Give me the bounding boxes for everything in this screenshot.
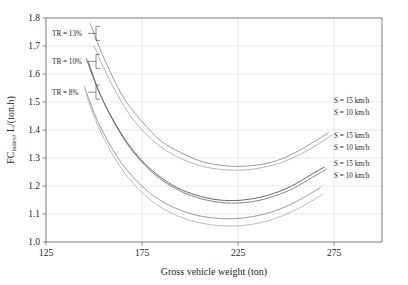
y-tick-label: 1.5 <box>28 97 40 107</box>
annotation-bracket-tr10 <box>96 54 100 68</box>
y-axis-title-subscript: index <box>10 136 17 151</box>
legend-label-0: S = 15 km/h <box>334 97 370 105</box>
y-axis-title-units: , L/(ton.h) <box>5 96 17 137</box>
y-tick-label: 1.8 <box>28 13 40 23</box>
legend-label-2: S = 15 km/h <box>334 132 370 140</box>
tr-annotations: TR = 13%TR = 10%TR = 8% <box>52 26 100 99</box>
fuel-consumption-chart: 125175225275 1.01.11.21.31.41.51.61.71.8… <box>0 0 408 285</box>
y-tick-label: 1.6 <box>28 69 40 79</box>
annotation-label-tr13: TR = 13% <box>52 30 82 38</box>
y-tick-label: 1.7 <box>28 41 40 51</box>
series-curve-0 <box>90 24 328 167</box>
y-tick-label: 1.2 <box>28 181 40 191</box>
legend: S = 15 km/hS = 10 km/hS = 15 km/hS = 10 … <box>334 97 370 180</box>
x-axis-ticks: 125175225275 <box>39 242 342 258</box>
y-axis-title: FCindex, L/(ton.h) <box>5 96 17 164</box>
annotation-label-tr10: TR = 10% <box>52 58 82 66</box>
x-tick-label: 225 <box>231 248 246 258</box>
svg-text:FCindex, L/(ton.h): FCindex, L/(ton.h) <box>5 96 17 164</box>
y-tick-label: 1.3 <box>28 153 40 163</box>
annotation-bracket-tr13 <box>96 26 100 40</box>
legend-label-1: S = 10 km/h <box>334 109 370 117</box>
y-tick-label: 1.0 <box>28 237 40 247</box>
x-tick-label: 275 <box>327 248 342 258</box>
y-tick-label: 1.1 <box>28 209 40 219</box>
curve-group <box>84 24 332 226</box>
y-axis-title-main: FC <box>5 151 16 164</box>
series-curve-3 <box>88 61 326 203</box>
x-axis-title: Gross vehicle weight (ton) <box>161 266 267 278</box>
series-curve-2 <box>86 59 324 201</box>
chart-figure: 125175225275 1.01.11.21.31.41.51.61.71.8… <box>0 0 408 285</box>
legend-label-3: S = 10 km/h <box>334 144 370 152</box>
legend-label-5: S = 10 km/h <box>334 172 370 180</box>
x-tick-label: 125 <box>39 248 54 258</box>
legend-label-4: S = 15 km/h <box>334 160 370 168</box>
y-tick-label: 1.4 <box>28 125 40 135</box>
annotation-label-tr8: TR = 8% <box>52 89 78 97</box>
x-tick-label: 175 <box>135 248 150 258</box>
y-axis-ticks: 1.01.11.21.31.41.51.61.71.8 <box>28 13 46 247</box>
